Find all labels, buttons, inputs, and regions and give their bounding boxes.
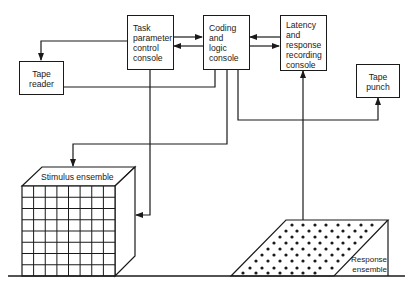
task-parameter-label: Task parameter control console [133,23,173,63]
tape-punch-label: Tape punch [357,72,399,92]
response-ensemble-label: Response ensemble [351,255,387,275]
stimulus-side-face [115,167,135,276]
tape-reader: Tape reader [19,61,64,95]
edge-task-to-tape-reader [41,41,127,60]
tape-reader-label: Tape reader [20,69,63,89]
stimulus-ensemble-label: Stimulus ensemble [41,172,114,182]
edge-tape-reader-to-coding [63,69,215,87]
tape-punch: Tape punch [356,64,400,98]
latency-recording-label: Latency and response recording console [286,20,326,70]
coding-logic-console: Coding and logic console [203,15,250,70]
latency-recording-console: Latency and response recording console [280,15,327,71]
task-parameter-console: Task parameter control console [127,15,174,70]
edge-task-to-stimulus-side [136,69,150,215]
stimulus-ensemble [22,167,135,276]
coding-logic-label: Coding and logic console [209,23,249,63]
